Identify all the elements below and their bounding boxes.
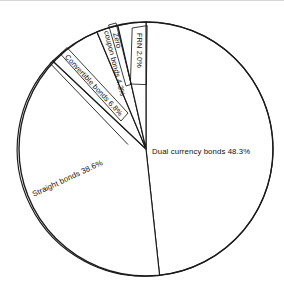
top-edge-rule <box>0 0 284 1</box>
label-frn: FRN 2.0% <box>135 33 144 68</box>
pie-chart-figure: FRN 2.0% Zero coupon bonds 4.3% Converti… <box>0 0 284 303</box>
pie-chart-svg: FRN 2.0% Zero coupon bonds 4.3% Converti… <box>0 0 284 303</box>
label-dual-currency-bonds: Dual currency bonds 48.3% <box>152 147 250 156</box>
